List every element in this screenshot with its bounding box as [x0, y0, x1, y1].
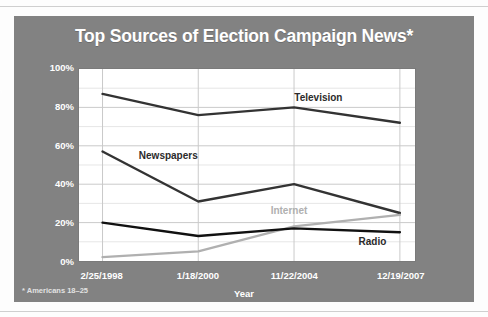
y-axis-title: Percentages — [0, 78, 2, 134]
series-label-television: Television — [294, 92, 342, 103]
chart-panel: Top Sources of Election Campaign News* P… — [14, 16, 474, 302]
series-label-internet: Internet — [271, 205, 308, 216]
figure-root: Top Sources of Election Campaign News* P… — [0, 0, 488, 317]
page-top-rule — [0, 6, 488, 7]
x-tick-label: 12/19/2007 — [377, 270, 425, 281]
footnote: * Americans 18–25 — [22, 286, 88, 295]
y-tick-label: 100% — [30, 62, 74, 73]
x-tick-label: 1/18/2000 — [177, 270, 219, 281]
series-label-radio: Radio — [359, 236, 387, 247]
plot-svg — [79, 69, 415, 261]
y-tick-label: 0% — [30, 256, 74, 267]
y-tick-label: 20% — [30, 217, 74, 228]
page-bottom-rule — [0, 311, 488, 312]
chart-title: Top Sources of Election Campaign News* — [14, 26, 474, 47]
x-tick-label: 2/25/1998 — [81, 270, 123, 281]
series-label-newspapers: Newspapers — [139, 150, 198, 161]
y-tick-label: 80% — [30, 101, 74, 112]
y-tick-label: 40% — [30, 178, 74, 189]
x-tick-label: 11/22/2004 — [271, 270, 318, 281]
y-tick-label: 60% — [30, 140, 74, 151]
plot-area — [78, 68, 416, 262]
